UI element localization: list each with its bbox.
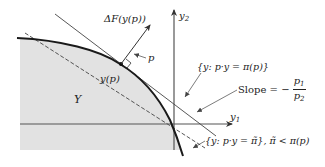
y1-axis-label: y1 (230, 112, 240, 124)
point-label: y(p) (100, 74, 120, 84)
price-vector-label: p (148, 53, 154, 63)
region-label: Y (74, 94, 81, 105)
isoprofit-max-label: {y: p·y = π(p)} (197, 62, 269, 72)
slope-denominator-sub: 2 (300, 95, 304, 103)
isoprofit-low-label: {y: p·y = π̃}, π̃ < π(p) (205, 136, 309, 146)
isoprofit-max-pointer (185, 73, 201, 97)
slope-pointer (197, 90, 237, 112)
slope-label: Slope = − p1 p2 (238, 76, 306, 103)
gradient-label: ΔF(y(p)) (104, 14, 146, 24)
y1-axis-label-sub: 1 (236, 116, 240, 124)
slope-denominator: p2 (293, 90, 306, 103)
slope-numerator: p1 (293, 76, 306, 90)
slope-numerator-sub: 1 (300, 80, 304, 88)
slope-label-prefix: Slope = − (238, 84, 290, 95)
price-vector-pointer (134, 54, 146, 58)
right-angle-marker (126, 59, 131, 68)
y2-axis-label-sub: 2 (185, 15, 189, 23)
y2-axis-label: y2 (179, 11, 189, 23)
slope-fraction: p1 p2 (293, 76, 306, 103)
